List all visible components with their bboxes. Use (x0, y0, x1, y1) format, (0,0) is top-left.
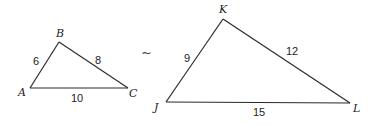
vertex-label-k: K (218, 3, 228, 16)
vertex-label-j: J (152, 101, 159, 114)
side-bc (59, 42, 128, 88)
triangle-jkl: J K L 9 12 15 (152, 3, 360, 118)
side-label-bc: 8 (95, 54, 101, 66)
side-label-ac: 10 (71, 92, 83, 104)
triangle-abc: A B C 6 8 10 (17, 27, 138, 104)
vertex-label-l: L (352, 102, 360, 115)
similarity-symbol: ~ (141, 45, 152, 60)
side-jk (166, 19, 223, 102)
vertex-label-b: B (55, 27, 64, 40)
side-label-ab: 6 (33, 55, 39, 67)
side-label-kl: 12 (286, 45, 298, 57)
vertex-label-a: A (17, 86, 26, 99)
side-label-jk: 9 (184, 52, 190, 64)
similar-triangles-diagram: A B C 6 8 10 ~ J K L 9 12 15 (0, 0, 383, 125)
side-jl (166, 102, 350, 103)
side-label-jl: 15 (253, 106, 265, 118)
side-kl (223, 19, 350, 103)
vertex-label-c: C (129, 87, 138, 100)
